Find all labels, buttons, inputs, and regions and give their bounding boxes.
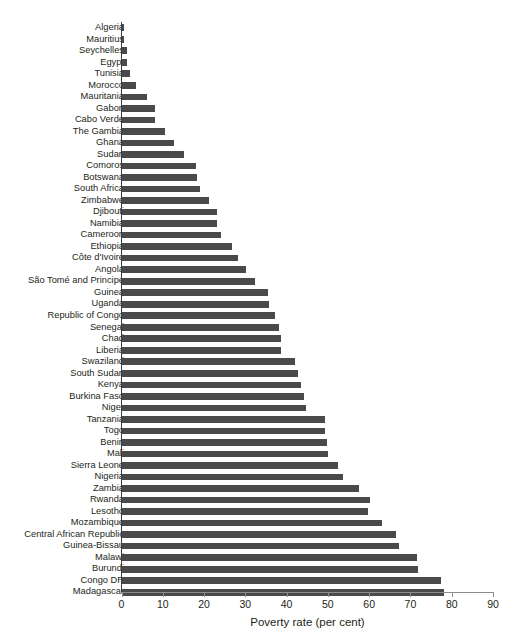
x-tick-label: 80 — [437, 598, 467, 611]
category-label: São Tomé and Principe — [0, 275, 124, 287]
category-label: The Gambia — [0, 126, 124, 138]
x-tick-label: 70 — [395, 598, 425, 611]
bar-row: South Sudan — [0, 368, 524, 380]
bar-row: Ethiopia — [0, 241, 524, 253]
bar-row: Namibia — [0, 218, 524, 230]
bar — [122, 174, 197, 181]
bar — [122, 474, 343, 481]
bar — [122, 209, 217, 216]
bar-row: Swaziland — [0, 356, 524, 368]
category-label: Mauritius — [0, 34, 124, 46]
bar-row: Guinea — [0, 287, 524, 299]
bar-row: Egypt — [0, 57, 524, 69]
bar-row: Zambia — [0, 483, 524, 495]
bar-row: Tunisia — [0, 68, 524, 80]
bar — [122, 105, 155, 112]
category-label: Gabon — [0, 103, 124, 115]
bar — [122, 566, 418, 573]
bar — [122, 94, 147, 101]
category-label: Uganda — [0, 298, 124, 310]
bar — [122, 186, 200, 193]
bar-row: Lesotho — [0, 506, 524, 518]
bar-row: Mauritius — [0, 34, 524, 46]
category-label: Burundi — [0, 563, 124, 575]
bar-row: Burkina Faso — [0, 391, 524, 403]
bar-row: Congo DR — [0, 575, 524, 587]
bar-row: Senegal — [0, 322, 524, 334]
category-label: Comoros — [0, 160, 124, 172]
bar — [122, 70, 130, 77]
bar — [122, 24, 124, 31]
bar-row: Malawi — [0, 552, 524, 564]
bar — [122, 324, 279, 331]
category-label: South Africa — [0, 183, 124, 195]
bar — [122, 117, 155, 124]
bar — [122, 451, 328, 458]
x-tick-mark — [204, 592, 205, 597]
category-label: Benin — [0, 437, 124, 449]
bar-row: Cameroon — [0, 229, 524, 241]
bar — [122, 335, 281, 342]
category-label: Mozambique — [0, 517, 124, 529]
bar-row: Algeria — [0, 22, 524, 34]
x-tick-mark — [122, 592, 123, 597]
bar-row: Rwanda — [0, 494, 524, 506]
x-tick-mark — [163, 592, 164, 597]
bar — [122, 508, 368, 515]
x-tick-mark — [369, 592, 370, 597]
bar — [122, 554, 417, 561]
bar — [122, 128, 165, 135]
category-label: Lesotho — [0, 506, 124, 518]
category-label: Togo — [0, 425, 124, 437]
category-label: Liberia — [0, 345, 124, 357]
bar — [122, 520, 382, 527]
category-label: Egypt — [0, 57, 124, 69]
bar-row: Sierra Leone — [0, 460, 524, 472]
bar-row: São Tomé and Principe — [0, 275, 524, 287]
category-label: Algeria — [0, 22, 124, 34]
category-label: Sierra Leone — [0, 460, 124, 472]
bar-row: Liberia — [0, 345, 524, 357]
bar-row: Djibouti — [0, 206, 524, 218]
poverty-rate-bar-chart: AlgeriaMauritiusSeychellesEgyptTunisiaMo… — [0, 0, 524, 638]
category-label: Zimbabwe — [0, 195, 124, 207]
bar-row: Tanzania — [0, 414, 524, 426]
bar — [122, 266, 246, 273]
bar — [122, 497, 370, 504]
x-tick-mark — [287, 592, 288, 597]
x-tick-label: 60 — [354, 598, 384, 611]
category-label: Angola — [0, 264, 124, 276]
category-label: Congo DR — [0, 575, 124, 587]
bar-row: Botswana — [0, 172, 524, 184]
bar — [122, 382, 301, 389]
bar-row: Ghana — [0, 137, 524, 149]
bar — [122, 485, 359, 492]
bar-row: Mali — [0, 448, 524, 460]
bar — [122, 531, 396, 538]
bar — [122, 82, 136, 89]
bar — [122, 301, 269, 308]
category-label: Madagascar — [0, 586, 124, 598]
x-tick-label: 90 — [478, 598, 508, 611]
x-tick-label: 40 — [272, 598, 302, 611]
category-label: Cabo Verde — [0, 114, 124, 126]
bar-row: The Gambia — [0, 126, 524, 138]
bar — [122, 278, 255, 285]
bar — [122, 312, 275, 319]
category-label: Seychelles — [0, 45, 124, 57]
bar — [122, 255, 238, 262]
x-tick-label: 20 — [189, 598, 219, 611]
category-label: Ghana — [0, 137, 124, 149]
bar — [122, 358, 295, 365]
bar — [122, 462, 338, 469]
bar — [122, 140, 174, 147]
bar-row: Burundi — [0, 563, 524, 575]
bar — [122, 370, 298, 377]
category-label: Morocco — [0, 80, 124, 92]
category-label: Senegal — [0, 322, 124, 334]
category-label: Chad — [0, 333, 124, 345]
bar-row: Cabo Verde — [0, 114, 524, 126]
x-tick-mark — [410, 592, 411, 597]
x-tick-label: 0 — [107, 598, 137, 611]
bar-row: Central African Republic — [0, 529, 524, 541]
